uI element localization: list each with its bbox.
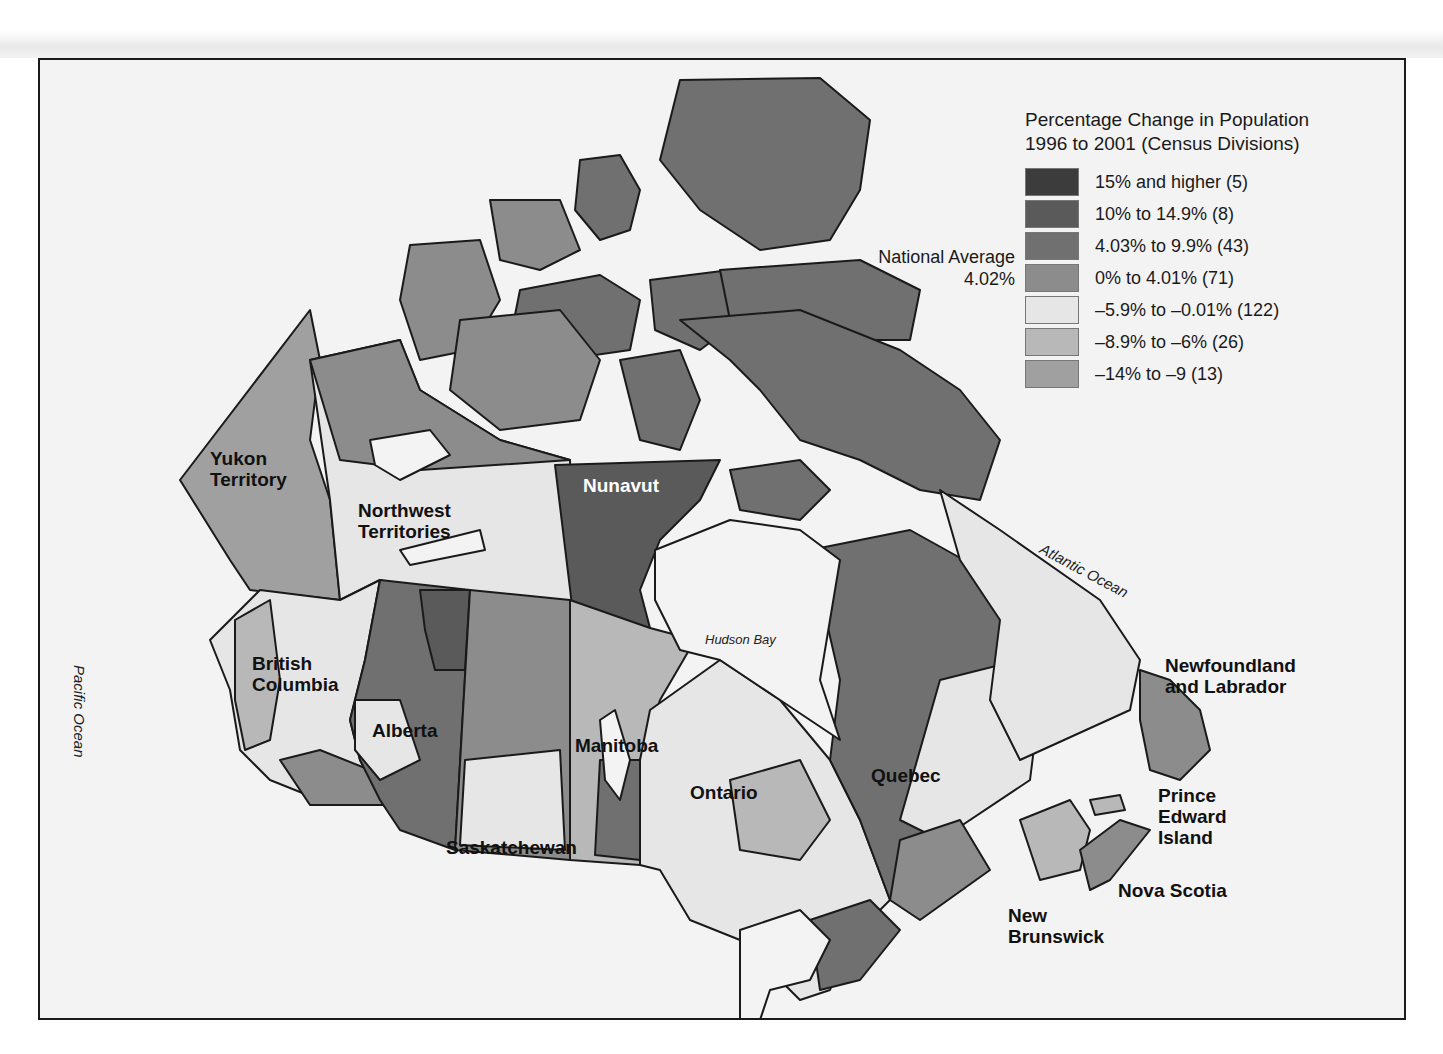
legend-label: 10% to 14.9% (8) xyxy=(1095,204,1234,225)
hudson-bay-label: Hudson Bay xyxy=(705,632,776,647)
legend-label: –8.9% to –6% (26) xyxy=(1095,332,1244,353)
legend-swatch xyxy=(1025,200,1079,228)
legend-title-line2: 1996 to 2001 (Census Divisions) xyxy=(1025,132,1365,156)
legend-label: 4.03% to 9.9% (43) xyxy=(1095,236,1249,257)
legend-swatch xyxy=(1025,296,1079,324)
national-average: National Average 4.02% xyxy=(825,246,1015,290)
national-average-value: 4.02% xyxy=(825,268,1015,290)
new-brunswick xyxy=(1020,800,1090,880)
legend: Percentage Change in Population 1996 to … xyxy=(1025,108,1365,390)
legend-label: 15% and higher (5) xyxy=(1095,172,1248,193)
prince-edward-island xyxy=(1090,795,1125,815)
legend-swatch xyxy=(1025,328,1079,356)
ns-label: Nova Scotia xyxy=(1118,880,1227,901)
legend-item: –14% to –9 (13) xyxy=(1025,358,1365,390)
arctic-island-a xyxy=(490,200,580,270)
map-frame: Yukon Territory Northwest Territories Nu… xyxy=(38,58,1406,1020)
pei-label: Prince Edward Island xyxy=(1158,785,1227,848)
ellesmere-island xyxy=(660,78,870,250)
nl-label: Newfoundland and Labrador xyxy=(1165,655,1296,697)
yukon-label: Yukon Territory xyxy=(210,448,287,490)
saskatchewan-label: Saskatchewan xyxy=(446,837,577,858)
legend-label: 0% to 4.01% (71) xyxy=(1095,268,1234,289)
axel-heiberg-island xyxy=(575,155,640,240)
national-average-label: National Average xyxy=(825,246,1015,268)
nb-label: New Brunswick xyxy=(1008,905,1104,947)
legend-swatch xyxy=(1025,360,1079,388)
manitoba-label: Manitoba xyxy=(575,735,658,756)
legend-title-line1: Percentage Change in Population xyxy=(1025,108,1365,132)
ontario-label: Ontario xyxy=(690,782,758,803)
legend-item: 10% to 14.9% (8) xyxy=(1025,198,1365,230)
pacific-ocean-label: Pacific Ocean xyxy=(71,665,88,805)
legend-label: –5.9% to –0.01% (122) xyxy=(1095,300,1279,321)
bc-label: British Columbia xyxy=(252,653,339,695)
southampton-island xyxy=(730,460,830,520)
legend-items: 15% and higher (5) 10% to 14.9% (8) 4.03… xyxy=(1025,166,1365,390)
alberta-label: Alberta xyxy=(372,720,437,741)
legend-item: 15% and higher (5) xyxy=(1025,166,1365,198)
sask-south-light xyxy=(460,750,565,850)
nunavut-label: Nunavut xyxy=(583,475,659,496)
baffin-island xyxy=(680,310,1000,500)
page-top-shadow xyxy=(0,30,1443,58)
legend-item: –5.9% to –0.01% (122) xyxy=(1025,294,1365,326)
great-lakes xyxy=(740,910,830,1020)
legend-label: –14% to –9 (13) xyxy=(1095,364,1223,385)
legend-item: 4.03% to 9.9% (43) xyxy=(1025,230,1365,262)
legend-swatch xyxy=(1025,168,1079,196)
somerset-island xyxy=(620,350,700,450)
legend-swatch xyxy=(1025,264,1079,292)
quebec-label: Quebec xyxy=(871,765,941,786)
nwt-label: Northwest Territories xyxy=(358,500,451,542)
legend-swatch xyxy=(1025,232,1079,260)
legend-item: –8.9% to –6% (26) xyxy=(1025,326,1365,358)
legend-item: 0% to 4.01% (71) xyxy=(1025,262,1365,294)
